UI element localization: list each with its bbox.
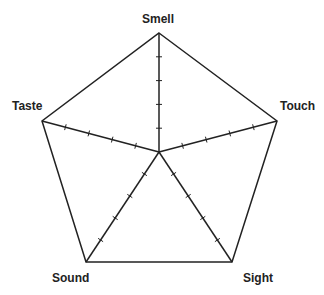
axis-label-sight: Sight	[243, 271, 273, 285]
axis-spoke-sound	[86, 152, 159, 262]
axis-label-smell: Smell	[142, 12, 174, 26]
axis-spoke-taste	[42, 121, 159, 152]
axis-label-sound: Sound	[52, 271, 89, 285]
axis-spoke-touch	[159, 121, 277, 152]
axis-spoke-sight	[159, 152, 232, 262]
axis-label-touch: Touch	[280, 99, 315, 113]
radar-diagram	[0, 0, 324, 295]
axis-label-taste: Taste	[12, 99, 42, 113]
